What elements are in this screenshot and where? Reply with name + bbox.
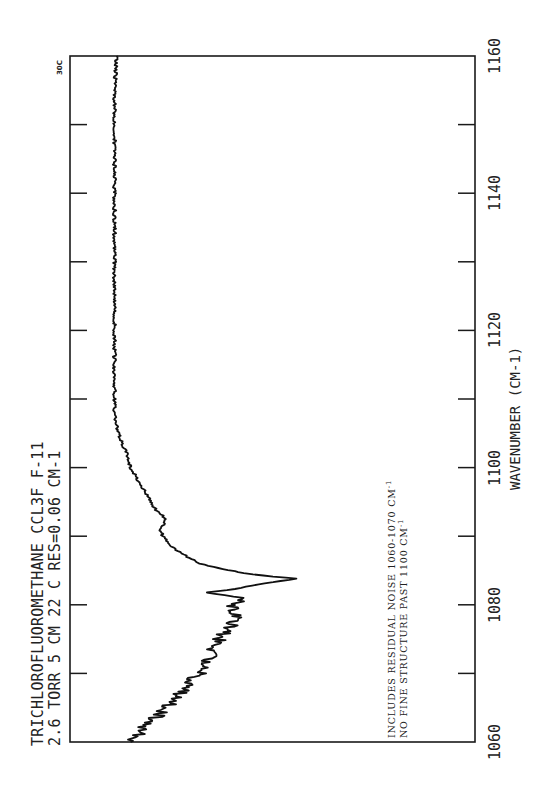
- spectrum-chart: [0, 0, 551, 799]
- tick-label-1140: 1140: [486, 175, 504, 211]
- tick-label-1060: 1060: [486, 724, 504, 760]
- axis-ticks: [70, 125, 475, 674]
- corner-label: 30C: [56, 60, 64, 75]
- spectrum-trace: [113, 56, 297, 742]
- plot-frame: [70, 56, 475, 742]
- tick-label-1120: 1120: [486, 312, 504, 348]
- chart-subtitle: 2.6 TORR 5 CM 22 C RES=0.06 CM-1: [46, 451, 64, 746]
- note-fine-structure: NO FINE STRUCTURE PAST 1100 CM-1: [397, 519, 409, 738]
- chart-title: TRICHLOROFLUOROMETHANE CCL3F F-11: [29, 441, 47, 746]
- note-residual-noise: INCLUDES RESIDUAL NOISE 1060-1070 CM-1: [385, 480, 397, 738]
- tick-label-1160: 1160: [486, 38, 504, 74]
- x-axis-label: WAVENUMBER (CM-1): [507, 347, 523, 490]
- tick-label-1080: 1080: [486, 587, 504, 623]
- tick-label-1100: 1100: [486, 449, 504, 485]
